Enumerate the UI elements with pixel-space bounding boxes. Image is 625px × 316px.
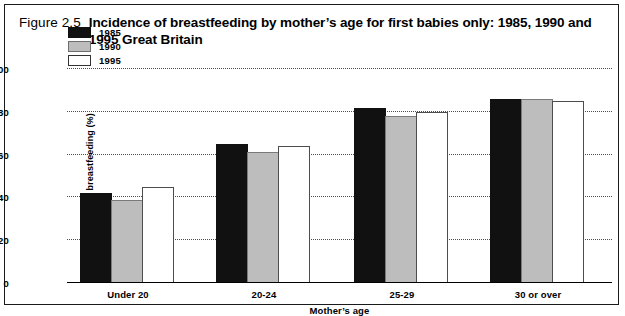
legend-item-1985: 1985 [68,27,121,38]
y-tick-label-40: 40 [0,192,9,203]
legend-item-1995: 1995 [68,55,121,66]
bar-group: 20-24 [217,69,311,283]
bar-1985-under-20 [80,193,112,283]
bar-1995-25-29 [416,112,448,283]
bar-1985-25-29 [354,108,386,283]
bar-group: 30 or over [491,69,585,283]
legend-item-1990: 1990 [68,41,121,52]
bar-1995-under-20 [142,187,174,283]
x-tick-label: 25-29 [390,289,415,300]
x-tick-label: 30 or over [515,289,561,300]
legend-swatch-1995 [68,55,91,66]
legend-label: 1985 [99,27,121,38]
x-tick-label: 20-24 [252,289,277,300]
bar-1990-20-24 [247,152,279,283]
legend-swatch-1990 [68,41,91,52]
bar-1985-20-24 [216,144,248,283]
y-tick-label-0: 0 [0,278,9,289]
bar-group: Under 20 [81,69,175,283]
y-tick-label-20: 20 [0,235,9,246]
bar-group: 25-29 [355,69,449,283]
figure-frame: Figure 2.5 Incidence of breastfeeding by… [4,4,619,305]
bar-1995-20-24 [278,146,310,283]
y-tick-label-60: 60 [0,149,9,160]
x-axis-title: Mother’s age [67,305,612,316]
bar-1985-30-or-over [490,99,522,283]
x-tick-label: Under 20 [107,289,148,300]
x-axis-line [67,282,612,283]
page-title: Incidence of breastfeeding by mother’s a… [89,14,609,48]
bar-1990-25-29 [385,116,417,283]
legend-swatch-1985 [68,27,91,38]
bar-1990-under-20 [111,200,143,283]
chart-legend: 198519901995 [68,27,121,66]
legend-label: 1995 [99,55,121,66]
y-tick-label-80: 80 [0,106,9,117]
bar-groups: Under 2020-2425-2930 or over [67,69,612,283]
bar-1995-30-or-over [552,101,584,283]
chart-plot-area: Incidence of breastfeeding (%) 020406080… [67,69,612,283]
bar-1990-30-or-over [521,99,553,283]
y-tick-label-100: 100 [0,64,9,75]
legend-label: 1990 [99,41,121,52]
